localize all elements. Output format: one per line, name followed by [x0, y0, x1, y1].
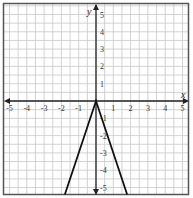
x-tick-label: 1: [111, 104, 115, 113]
y-tick-label: 2: [100, 62, 104, 71]
y-tick-label: 3: [100, 45, 104, 54]
arrow-up-icon: [93, 4, 99, 10]
axes: [4, 4, 189, 195]
y-tick-label: 4: [100, 28, 104, 37]
y-tick-label: -4: [100, 166, 107, 175]
y-tick-label: 1: [100, 80, 104, 89]
x-tick-label: 5: [181, 104, 185, 113]
x-tick-label: -4: [23, 104, 30, 113]
y-tick-label: 5: [100, 11, 104, 20]
x-tick-label: -3: [41, 104, 48, 113]
x-tick-label: -1: [75, 104, 82, 113]
x-tick-label: -5: [6, 104, 13, 113]
graph-plot: -5-4-3-2-11234554321-1-2-3-4-5 x y: [0, 0, 193, 198]
y-tick-label: -3: [100, 149, 107, 158]
x-tick-label: 3: [146, 104, 150, 113]
y-tick-label: -5: [100, 184, 107, 193]
y-axis-label: y: [86, 6, 92, 17]
x-tick-label: 2: [129, 104, 133, 113]
x-tick-label: 4: [163, 104, 167, 113]
x-axis-label: x: [180, 89, 186, 100]
y-tick-label: -2: [100, 132, 107, 141]
x-tick-label: -2: [58, 104, 65, 113]
